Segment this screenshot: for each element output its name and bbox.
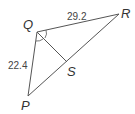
- segment-PR: [28, 14, 119, 96]
- angle-mark-SQR: [45, 30, 47, 38]
- segment-QP: [28, 32, 37, 96]
- vertex-label-S: S: [67, 64, 76, 79]
- diagram-svg: Q R P S 29.2 22.4: [0, 0, 135, 114]
- vertex-label-Q: Q: [23, 17, 33, 32]
- angle-mark-PQS: [36, 39, 43, 41]
- segment-QS-bisector: [37, 32, 67, 62]
- vertex-label-P: P: [21, 98, 30, 113]
- length-label-QP: 22.4: [8, 60, 28, 71]
- triangle-diagram: Q R P S 29.2 22.4: [0, 0, 135, 114]
- vertex-label-R: R: [121, 6, 130, 21]
- length-label-QR: 29.2: [67, 11, 87, 22]
